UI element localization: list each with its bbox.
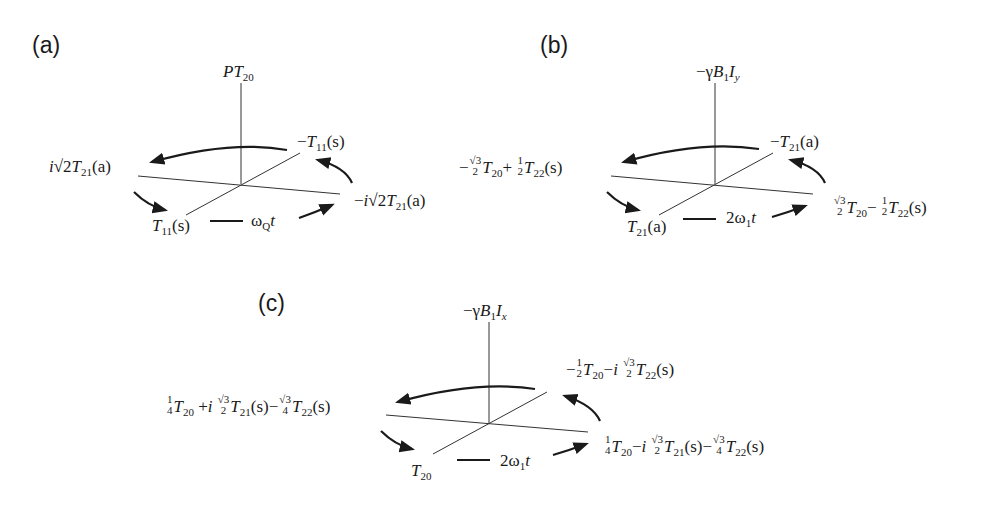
panel-c-label: (c) [258, 290, 285, 317]
panel-b-top-right-label: −T21(a) [770, 133, 819, 150]
panel-b-right-label: √32T20− 12T22(s) [833, 198, 927, 220]
panel-c-left-label: 14T20 +i √32T21(s)−√34T22(s) [166, 397, 330, 419]
panel-c-right-label: 14T20−i √32T21(s)−√34T22(s) [604, 437, 764, 459]
panel-b-axis-label: −γB1Iy [696, 63, 740, 80]
panel-c-axes [386, 322, 588, 454]
panel-b-arrows [607, 146, 825, 219]
panel-c-bottom-label: T20 [411, 462, 431, 479]
panel-a-axis-label: PT20 [223, 63, 254, 80]
panel-c-rotation-label: 2ω1t [500, 452, 530, 469]
panel-b-bottom-label: T21(a) [627, 218, 666, 235]
panel-a-right-label: −i√2T21(a) [354, 192, 426, 209]
panel-b-label: (b) [540, 32, 568, 59]
panel-c-top-right-label: −12T20−i √32T22(s) [566, 360, 674, 382]
panel-b-rotation-label: 2ω1t [726, 209, 756, 226]
panel-a-bottom-label: T11(s) [152, 217, 190, 234]
panel-a-left-label: i√2T21(a) [49, 158, 111, 175]
panel-c-axis-label: −γB1Ix [463, 302, 507, 319]
diagram-lines [0, 0, 981, 507]
panel-a-top-right-label: −T11(s) [297, 133, 345, 150]
panel-b-left-label: −√32T20+ 12T22(s) [459, 158, 562, 180]
panel-a-label: (a) [32, 32, 60, 59]
panel-a-rotation-label: ωQt [251, 212, 275, 229]
